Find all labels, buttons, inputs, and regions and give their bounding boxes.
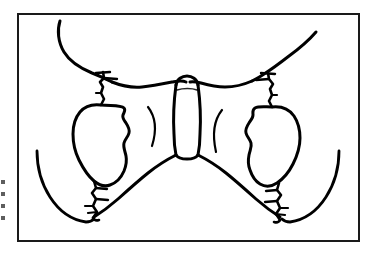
- right-inferior-fracture-tick-4: [276, 214, 285, 215]
- right-superior-fracture-tick-2: [256, 79, 269, 80]
- edge-mark-2: [1, 192, 5, 196]
- right-inferior-fracture-tick-1: [266, 190, 277, 191]
- pelvis-line-drawing: [0, 0, 374, 257]
- left-superior-fracture-tick-2: [104, 78, 117, 79]
- left-inferior-fracture-tick-2: [96, 199, 108, 200]
- left-inferior-fracture-tick-1: [96, 188, 107, 189]
- figure-border: [18, 14, 359, 241]
- figure-root: Anterior view line drawing of the bony p…: [0, 0, 374, 257]
- edge-mark-3: [1, 204, 5, 208]
- left-superior-fracture-tick-1: [96, 72, 110, 73]
- edge-mark-1: [1, 180, 5, 184]
- edge-mark-4: [1, 216, 5, 220]
- left-inferior-fracture-tick-4: [88, 212, 97, 213]
- right-inferior-fracture-tick-2: [265, 201, 277, 202]
- right-superior-fracture-tick-1: [261, 73, 275, 74]
